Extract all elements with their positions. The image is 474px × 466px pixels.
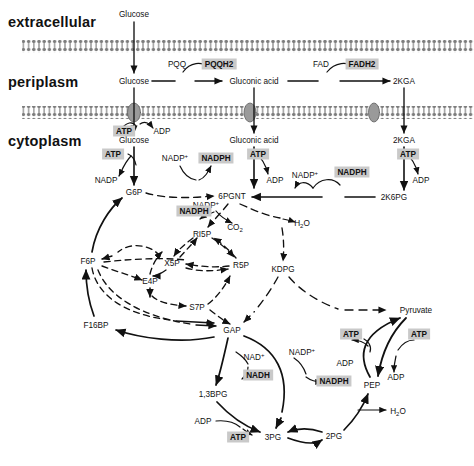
cofactor-nadp-2k6pg-reductase: NADP+	[292, 170, 318, 181]
cofactor-nadph-gapn: NADPH	[316, 376, 351, 387]
metabolite-2pg: 2PG	[326, 432, 342, 441]
metabolite-2kga-periplasm: 2KGA	[393, 77, 415, 86]
metabolite-r5p: R5P	[233, 261, 249, 270]
metabolite-2kga-cytoplasm: 2KGA	[393, 136, 415, 145]
metabolite-g6p: G6P	[126, 188, 142, 197]
metabolite-pyruvate: Pyruvate	[400, 306, 432, 315]
cofactor-atp-glucokinase: ATP	[102, 149, 124, 160]
metabolite-kdpg: KDPG	[271, 265, 294, 274]
2kga-transporter	[369, 103, 380, 122]
metabolite-gap: GAP	[223, 326, 240, 335]
cofactor-fadh2: FADH2	[346, 59, 379, 70]
cofactor-pqqh2: PQQH2	[202, 59, 237, 70]
metabolite-gluconic-acid-periplasm: Gluconic acid	[229, 77, 278, 86]
outer-membrane	[22, 40, 474, 53]
metabolite-ri5p: RI5P	[193, 230, 211, 239]
metabolite-h2o-enolase: H2O	[390, 407, 406, 418]
metabolite-6pgnt: 6PGNT	[218, 192, 245, 201]
compartment-label-periplasm: periplasm	[8, 74, 78, 90]
cofactor-adp-phosphoglycerate-kinase: ADP	[195, 417, 212, 426]
metabolite-gluconic-acid-cytoplasm: Gluconic acid	[229, 136, 278, 145]
metabolite-glucose-extracellular: Glucose	[119, 10, 149, 19]
cofactor-atp-ketogluconate-kinase: ATP	[397, 149, 419, 160]
cofactor-pqq: PQQ	[168, 60, 186, 69]
metabolite-glucose-cytoplasm: Glucose	[119, 136, 149, 145]
cofactor-nadph-2k6pg-reductase: NADPH	[334, 167, 369, 178]
metabolite-s7p: S7P	[189, 303, 204, 312]
cofactor-atp-gluconokinase: ATP	[247, 149, 269, 160]
cofactor-nadp-gapn: NADP+	[289, 347, 315, 358]
metabolite-e4p: E4P	[142, 277, 157, 286]
cofactor-atp-pyruvate-kinase: ATP	[340, 329, 362, 340]
cofactor-adp-gluconokinase: ADP	[267, 176, 284, 185]
cofactor-adp-glucose-transport: ADP	[154, 127, 171, 136]
cofactor-atp-pep-synthase: ATP	[408, 329, 430, 340]
cofactor-nadp-g6p-dehydrogenase: NADP+	[162, 153, 188, 164]
cofactor-atp-glucose-transport: ATP	[113, 126, 135, 137]
cofactor-nadph-6pg-dehydrogenase: NADPH	[176, 206, 211, 217]
cofactor-adp-pep-synthase: ADP	[388, 373, 405, 382]
metabolite-13bpg: 1,3BPG	[199, 390, 228, 399]
metabolite-x5p: X5P	[164, 259, 179, 268]
metabolite-2k6pg: 2K6PG	[381, 193, 407, 202]
metabolite-f6p: F6P	[80, 257, 95, 266]
cofactor-atp-phosphoglycerate-kinase: ATP	[227, 432, 249, 443]
metabolite-co2: CO2	[227, 223, 243, 234]
cofactor-adp-pyruvate-kinase: ADP	[337, 359, 354, 368]
cofactor-nad-gapdh: NAD+	[244, 352, 265, 363]
metabolite-glucose-periplasm: Glucose	[119, 77, 149, 86]
compartment-label-cytoplasm: cytoplasm	[8, 133, 82, 149]
metabolite-f16bp: F16BP	[83, 321, 108, 330]
cofactor-fad: FAD	[313, 60, 329, 69]
cofactor-nadph-g6p-dehydrogenase: NADPH	[198, 153, 233, 164]
metabolite-3pg: 3PG	[265, 433, 281, 442]
compartment-label-extracellular: extracellular	[8, 14, 96, 30]
pathway-figure: extracellular periplasm cytoplasm Glucos…	[0, 0, 474, 466]
metabolite-pep: PEP	[364, 381, 380, 390]
cofactor-adp-ketogluconate-kinase: ADP	[413, 176, 430, 185]
cofactor-adp-glucokinase: NADP	[95, 176, 118, 185]
cofactor-nadh-gapdh: NADH	[243, 370, 273, 381]
metabolite-h2o-entner-doudoroff: H2O	[294, 219, 310, 230]
